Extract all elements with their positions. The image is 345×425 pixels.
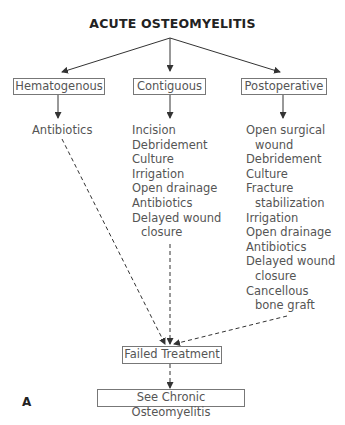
node-hematogenous: Hematogenous	[13, 78, 105, 95]
treatment-item-continuation: wound	[246, 138, 335, 153]
panel-label: A	[22, 395, 31, 409]
node-see-chronic-osteomyelitis: See Chronic Osteomyelitis	[97, 389, 245, 407]
contiguous-treatment-list: Incision Debridement Culture Irrigation …	[132, 123, 221, 240]
treatment-item: Antibiotics	[32, 123, 92, 138]
treatment-item: Antibiotics	[246, 240, 335, 255]
treatment-item: Debridement	[132, 138, 221, 153]
arrow-to-hematogenous	[62, 38, 170, 72]
treatment-item: Open surgical	[246, 123, 335, 138]
treatment-item-continuation: stabilization	[246, 196, 335, 211]
node-contiguous: Contiguous	[133, 78, 206, 95]
treatment-item: Open drainage	[132, 181, 221, 196]
treatment-item-continuation: closure	[132, 225, 221, 240]
postoperative-treatment-list: Open surgical wound Debridement Culture …	[246, 123, 335, 313]
treatment-item: Irrigation	[246, 211, 335, 226]
treatment-item: Incision	[132, 123, 221, 138]
treatment-item-continuation: closure	[246, 269, 335, 284]
treatment-item: Delayed wound	[246, 254, 335, 269]
treatment-item: Antibiotics	[132, 196, 221, 211]
treatment-item: Fracture	[246, 181, 335, 196]
treatment-item: Cancellous	[246, 284, 335, 299]
arrow-to-postoperative	[170, 38, 280, 72]
treatment-item: Culture	[246, 167, 335, 182]
dashed-arrow-postoperative-to-failed	[174, 316, 287, 344]
node-failed-treatment: Failed Treatment	[122, 346, 222, 364]
diagram-title: ACUTE OSTEOMYELITIS	[0, 16, 345, 31]
treatment-item: Delayed wound	[132, 211, 221, 226]
node-postoperative: Postoperative	[241, 78, 327, 95]
treatment-item: Culture	[132, 152, 221, 167]
treatment-item-continuation: bone graft	[246, 298, 335, 313]
treatment-item: Irrigation	[132, 167, 221, 182]
hematogenous-treatment-list: Antibiotics	[32, 123, 92, 138]
treatment-item: Open drainage	[246, 225, 335, 240]
treatment-item: Debridement	[246, 152, 335, 167]
